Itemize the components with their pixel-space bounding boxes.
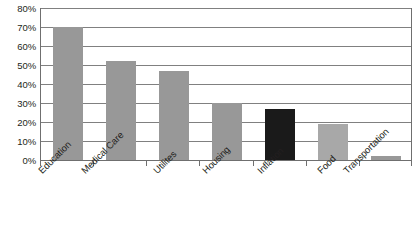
plot-area — [40, 8, 412, 160]
y-tick-label: 10% — [17, 136, 36, 147]
y-tick-label: 80% — [17, 3, 36, 14]
bar-slot — [200, 8, 253, 160]
bar[interactable] — [318, 124, 348, 160]
y-axis: 0%10%20%30%40%50%60%70%80% — [0, 8, 40, 160]
y-tick-label: 20% — [17, 117, 36, 128]
bar-series — [41, 8, 411, 160]
y-tick-label: 30% — [17, 98, 36, 109]
bar-slot — [307, 8, 360, 160]
x-axis-labels: EducationMedical CareUtilitesHousingInfl… — [40, 166, 412, 232]
bar[interactable] — [53, 27, 83, 160]
bar-slot — [254, 8, 307, 160]
y-tick-label: 50% — [17, 60, 36, 71]
y-tick-label: 60% — [17, 41, 36, 52]
y-tick-label: 40% — [17, 79, 36, 90]
bar-chart: 0%10%20%30%40%50%60%70%80% EducationMedi… — [0, 0, 418, 232]
y-tick-label: 0% — [22, 155, 36, 166]
bar-slot — [147, 8, 200, 160]
bar[interactable] — [159, 71, 189, 160]
y-tick-label: 70% — [17, 22, 36, 33]
bar-slot — [41, 8, 94, 160]
